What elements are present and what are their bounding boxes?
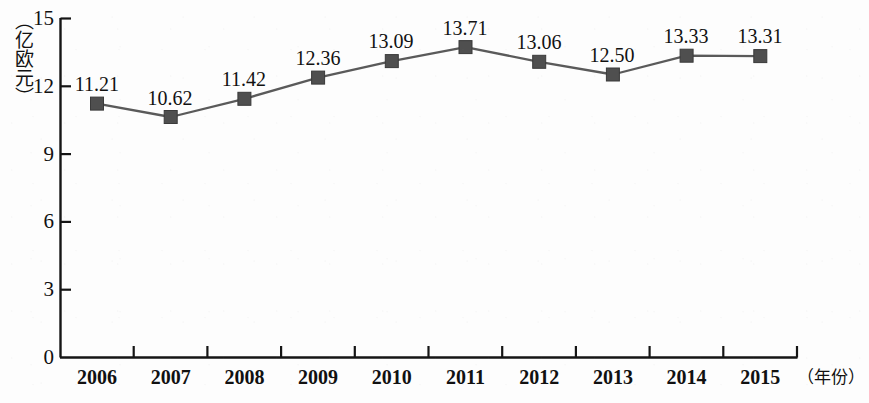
- plot-area: [0, 0, 869, 403]
- line-chart: （亿欧元） 15 12 9 6 3 0: [0, 0, 869, 403]
- x-tick-label-2014: 2014: [650, 366, 724, 388]
- data-point-2009[interactable]: [312, 71, 325, 84]
- value-label-2015: 13.31: [725, 26, 795, 46]
- data-point-2015[interactable]: [754, 50, 767, 63]
- value-label-2013: 12.50: [577, 45, 647, 65]
- data-point-2013[interactable]: [606, 68, 619, 81]
- value-label-2010: 13.09: [356, 31, 426, 51]
- data-point-2012[interactable]: [533, 55, 546, 68]
- x-axis-label: （年份）: [793, 366, 869, 388]
- x-tick-label-2009: 2009: [281, 366, 355, 388]
- x-axis-ticks: [134, 346, 797, 358]
- data-point-2007[interactable]: [164, 111, 177, 124]
- value-label-2009: 12.36: [283, 48, 353, 68]
- data-point-2014[interactable]: [680, 49, 693, 62]
- value-label-2007: 10.62: [135, 88, 205, 108]
- x-tick-label-2010: 2010: [355, 366, 429, 388]
- x-tick-label-2013: 2013: [576, 366, 650, 388]
- value-label-2006: 11.21: [62, 74, 132, 94]
- x-tick-label-2006: 2006: [60, 366, 134, 388]
- value-label-2012: 13.06: [504, 32, 574, 52]
- value-label-2011: 13.71: [430, 18, 500, 38]
- data-point-2010[interactable]: [385, 55, 398, 68]
- x-tick-label-2008: 2008: [207, 366, 281, 388]
- data-point-2008[interactable]: [238, 92, 251, 105]
- value-label-2014: 13.33: [651, 26, 721, 46]
- x-tick-label-2012: 2012: [502, 366, 576, 388]
- x-tick-label-2011: 2011: [429, 366, 503, 388]
- y-axis-ticks: [61, 19, 72, 290]
- data-point-2006[interactable]: [91, 97, 104, 110]
- x-tick-label-2007: 2007: [134, 366, 208, 388]
- data-point-2011[interactable]: [459, 41, 472, 54]
- value-label-2008: 11.42: [209, 69, 279, 89]
- x-tick-label-2015: 2015: [723, 366, 797, 388]
